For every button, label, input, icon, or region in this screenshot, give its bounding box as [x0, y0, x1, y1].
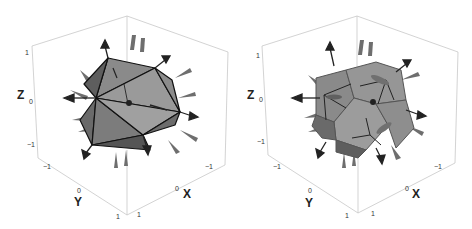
x-tick-minus1: −1 [205, 163, 213, 170]
x-axis-title: X [412, 188, 420, 200]
z-tick-minus1: −1 [257, 138, 265, 145]
icosahedron-3d-plot [0, 0, 236, 229]
y-axis-title: Y [305, 197, 313, 209]
dodecahedron-3d-plot [236, 0, 472, 229]
dodecahedron-plot-panel: Z 1 0 −1 −1 0 1 Y 1 0 −1 X [236, 0, 472, 229]
z-tick-0: 0 [29, 98, 33, 105]
y-tick-minus1: −1 [273, 163, 281, 170]
y-tick-0: 0 [77, 187, 81, 194]
z-axis-title: Z [247, 89, 254, 101]
z-tick-0: 0 [259, 96, 263, 103]
x-tick-0: 0 [405, 185, 409, 192]
y-axis-title: Y [74, 196, 82, 208]
z-tick-minus1: −1 [27, 141, 35, 148]
y-tick-0: 0 [308, 187, 312, 194]
y-tick-1: 1 [345, 212, 349, 219]
z-axis-title: Z [17, 89, 24, 101]
icosahedron-plot-panel: Z 1 0 −1 −1 0 1 Y 1 0 −1 X [0, 0, 236, 229]
x-tick-1: 1 [371, 210, 375, 217]
y-tick-minus1: −1 [43, 163, 51, 170]
x-tick-minus1: −1 [434, 163, 442, 170]
x-axis-title: X [183, 188, 191, 200]
y-tick-1: 1 [116, 213, 120, 220]
z-tick-1: 1 [256, 52, 260, 59]
x-tick-1: 1 [137, 211, 141, 218]
x-tick-0: 0 [175, 185, 179, 192]
z-tick-1: 1 [25, 49, 29, 56]
dodecahedron-faces [312, 62, 414, 158]
